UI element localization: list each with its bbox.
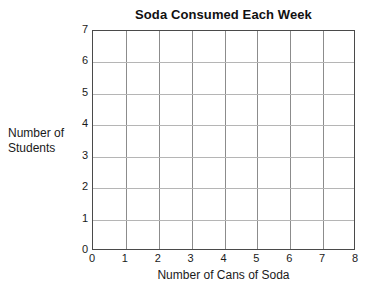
x-axis-tick-label: 2: [146, 252, 170, 265]
gridline-vertical: [290, 31, 291, 249]
y-axis-tick-label: 5: [66, 87, 88, 98]
y-axis-tick-label: 3: [66, 150, 88, 161]
gridline-vertical: [323, 31, 324, 249]
x-axis-tick-label: 3: [179, 252, 203, 265]
x-axis-tick-labels: 012345678: [92, 252, 355, 268]
y-axis-tick-label: 4: [66, 118, 88, 129]
y-axis-tick-label: 7: [66, 24, 88, 35]
y-axis-label-line-1: Number of: [8, 126, 66, 141]
x-axis-tick-label: 7: [310, 252, 334, 265]
y-axis-label: Number of Students: [8, 126, 66, 156]
y-axis-label-line-2: Students: [8, 141, 66, 156]
gridline-horizontal: [93, 220, 354, 221]
gridline-vertical: [159, 31, 160, 249]
x-axis-tick-label: 5: [244, 252, 268, 265]
gridline-vertical: [126, 31, 127, 249]
gridline-horizontal: [93, 188, 354, 189]
x-axis-label: Number of Cans of Soda: [92, 268, 355, 282]
x-axis-tick-label: 1: [113, 252, 137, 265]
chart-figure: Soda Consumed Each Week Number of Studen…: [0, 0, 367, 287]
gridline-horizontal: [93, 125, 354, 126]
gridline-horizontal: [93, 62, 354, 63]
gridline-horizontal: [93, 157, 354, 158]
x-axis-tick-label: 0: [80, 252, 104, 265]
y-axis-tick-label: 1: [66, 213, 88, 224]
gridline-vertical: [257, 31, 258, 249]
y-axis-tick-label: 6: [66, 55, 88, 66]
gridline-vertical: [192, 31, 193, 249]
y-axis-tick-label: 2: [66, 181, 88, 192]
x-axis-tick-label: 6: [277, 252, 301, 265]
gridline-horizontal: [93, 94, 354, 95]
x-axis-tick-label: 8: [343, 252, 367, 265]
y-axis-tick-labels: 01234567: [62, 30, 88, 250]
x-axis-tick-label: 4: [212, 252, 236, 265]
gridline-vertical: [225, 31, 226, 249]
plot-area: [92, 30, 355, 250]
chart-title: Soda Consumed Each Week: [92, 7, 355, 22]
